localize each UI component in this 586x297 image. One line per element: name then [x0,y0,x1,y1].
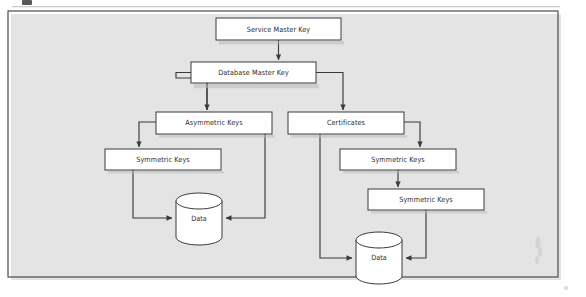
node-label: Symmetric Keys [371,155,425,164]
node-symmetric-keys-right-2[interactable]: Symmetric Keys [368,189,487,213]
diagram-canvas: Service Master Key Database Master Key A… [0,0,586,297]
node-shadow [343,171,459,173]
node-service-master-key[interactable]: Service Master Key [216,18,344,44]
node-symmetric-keys-right-1[interactable]: Symmetric Keys [340,149,459,173]
node-shadow [194,84,319,88]
cylinder-label: Data [191,214,206,223]
node-shadow [219,41,344,44]
node-data-left[interactable]: Data [176,193,222,245]
cylinder-top [176,193,222,209]
node-shadow [159,135,275,138]
node-label: Asymmetric Keys [185,118,243,127]
node-label: Symmetric Keys [136,155,190,164]
node-database-master-key[interactable]: Database Master Key [191,62,319,88]
node-shadow [371,211,487,213]
node-label: Symmetric Keys [399,195,453,204]
frame-shadow [11,14,561,280]
scan-top-rule [12,6,560,7]
node-shadow [108,171,224,173]
node-data-right[interactable]: Data [356,232,402,284]
node-label: Database Master Key [218,68,289,77]
node-label: Service Master Key [247,25,311,34]
cylinder-top [356,232,402,248]
node-label: Certificates [327,118,366,127]
node-symmetric-keys-left[interactable]: Symmetric Keys [105,149,224,173]
node-asymmetric-keys[interactable]: Asymmetric Keys [156,112,275,138]
node-certificates[interactable]: Certificates [288,112,407,138]
figure-label-mark [22,0,32,5]
node-shadow [291,135,407,138]
cylinder-label: Data [371,253,386,262]
